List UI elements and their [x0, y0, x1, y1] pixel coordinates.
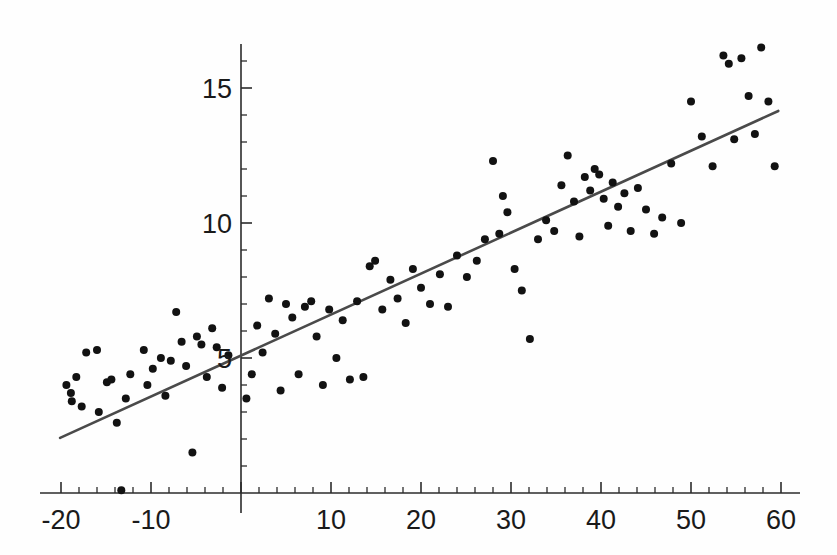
data-point	[667, 160, 675, 168]
data-point	[436, 270, 444, 278]
data-point	[719, 52, 727, 60]
data-point	[248, 370, 256, 378]
data-point	[157, 354, 165, 362]
data-point	[499, 192, 507, 200]
data-point	[394, 295, 402, 303]
data-point	[62, 381, 70, 389]
data-point	[463, 273, 471, 281]
data-point	[78, 403, 86, 411]
data-point	[182, 362, 190, 370]
data-point	[511, 265, 519, 273]
tick-labels: -20-1010203040506051015	[41, 74, 796, 535]
data-point	[600, 195, 608, 203]
data-point	[82, 349, 90, 357]
data-point	[208, 324, 216, 332]
data-point	[417, 284, 425, 292]
x-tick-label: -20	[41, 505, 80, 535]
data-point	[295, 370, 303, 378]
data-point	[642, 206, 650, 214]
data-point	[771, 162, 779, 170]
data-point	[149, 365, 157, 373]
data-point	[178, 338, 186, 346]
x-tick-label: 40	[586, 505, 616, 535]
data-point	[167, 357, 175, 365]
data-point	[604, 222, 612, 230]
data-point	[426, 300, 434, 308]
data-point	[489, 157, 497, 165]
data-point	[453, 251, 461, 259]
data-point	[67, 389, 75, 397]
data-point	[687, 98, 695, 106]
data-point	[218, 384, 226, 392]
data-point	[698, 133, 706, 141]
data-point	[534, 235, 542, 243]
data-point	[122, 395, 130, 403]
data-point	[319, 381, 327, 389]
data-point	[378, 305, 386, 313]
data-point	[581, 173, 589, 181]
data-point	[371, 257, 379, 265]
data-points	[62, 44, 778, 495]
data-point	[737, 54, 745, 62]
data-point	[677, 219, 685, 227]
data-point	[253, 322, 261, 330]
data-point	[751, 130, 759, 138]
data-point	[203, 373, 211, 381]
data-point	[353, 297, 361, 305]
data-point	[650, 230, 658, 238]
data-point	[550, 227, 558, 235]
data-point	[126, 370, 134, 378]
x-tick-label: 60	[766, 505, 796, 535]
data-point	[473, 257, 481, 265]
data-point	[143, 381, 151, 389]
x-tick-label: 50	[676, 505, 706, 535]
data-point	[634, 184, 642, 192]
data-point	[313, 332, 321, 340]
data-point	[288, 314, 296, 322]
data-point	[346, 376, 354, 384]
x-tick-label: -10	[131, 505, 170, 535]
data-point	[518, 287, 526, 295]
data-point	[444, 303, 452, 311]
data-point	[325, 305, 333, 313]
data-point	[140, 346, 148, 354]
data-point	[117, 486, 125, 494]
data-point	[359, 373, 367, 381]
data-point	[339, 316, 347, 324]
data-point	[725, 60, 733, 68]
data-point	[409, 265, 417, 273]
data-point	[242, 395, 250, 403]
data-point	[332, 354, 340, 362]
data-point	[730, 135, 738, 143]
data-point	[586, 187, 594, 195]
data-point	[282, 300, 290, 308]
data-point	[495, 230, 503, 238]
data-point	[745, 92, 753, 100]
data-point	[481, 235, 489, 243]
x-tick-label: 10	[316, 505, 346, 535]
data-point	[620, 189, 628, 197]
data-point	[265, 295, 273, 303]
data-point	[557, 181, 565, 189]
data-point	[386, 276, 394, 284]
plot-canvas: -20-1010203040506051015	[0, 0, 837, 555]
data-point	[526, 335, 534, 343]
data-point	[68, 397, 76, 405]
data-point	[503, 208, 511, 216]
data-point	[757, 44, 765, 52]
data-point	[627, 227, 635, 235]
data-point	[277, 386, 285, 394]
data-point	[614, 203, 622, 211]
data-point	[107, 376, 115, 384]
data-point	[709, 162, 717, 170]
data-point	[764, 98, 772, 106]
data-point	[570, 197, 578, 205]
data-point	[595, 170, 603, 178]
scatter-plot-figure: -20-1010203040506051015	[0, 0, 837, 555]
data-point	[575, 233, 583, 241]
data-point	[95, 408, 103, 416]
data-point	[542, 216, 550, 224]
data-point	[271, 330, 279, 338]
data-point	[564, 152, 572, 160]
data-point	[259, 349, 267, 357]
